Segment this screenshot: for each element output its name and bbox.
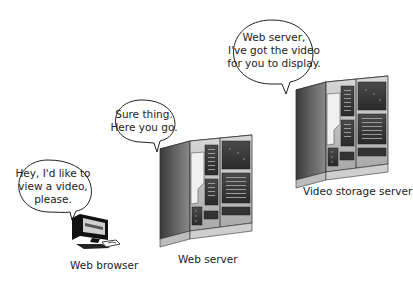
speech-line: Hey, I'd like to <box>8 167 98 180</box>
server-cabinet-icon <box>296 76 388 188</box>
speech-line: please. <box>8 193 98 206</box>
speech-line: Sure thing. <box>108 108 180 121</box>
speech-line: I've got the video <box>226 44 322 57</box>
label-video-storage-server: Video storage server <box>303 185 412 197</box>
label-web-browser: Web browser <box>70 259 138 271</box>
computer-icon <box>72 214 120 249</box>
speech-line: Here you go. <box>108 121 180 134</box>
label-web-server: Web server <box>178 253 237 265</box>
speech-line: Web server, <box>226 31 322 44</box>
speech-text-video-storage: Web server, I've got the video for you t… <box>226 31 322 70</box>
speech-text-web-browser: Hey, I'd like to view a video, please. <box>8 167 98 206</box>
speech-text-web-server: Sure thing. Here you go. <box>108 108 180 134</box>
speech-line: for you to display. <box>226 57 322 70</box>
server-cabinet-icon <box>160 135 252 247</box>
diagram-canvas <box>0 0 413 285</box>
speech-line: view a video, <box>8 180 98 193</box>
